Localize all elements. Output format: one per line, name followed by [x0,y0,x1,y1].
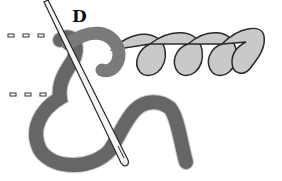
step-label: D [72,6,87,26]
stitch-illustration [0,0,282,181]
lower-guide-line [10,93,46,96]
thread-coil [112,28,264,75]
upper-guide-line [8,34,44,37]
